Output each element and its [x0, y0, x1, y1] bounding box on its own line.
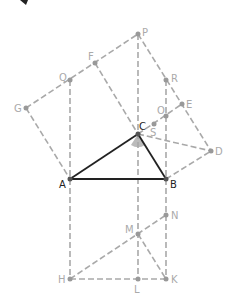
label-l: L: [134, 284, 140, 295]
label-b: B: [170, 179, 177, 190]
label-d: D: [215, 146, 223, 157]
label-f: F: [88, 51, 94, 62]
label-p: P: [142, 27, 148, 38]
geometry-diagram: P F Q G R E O S D N M H L K A B C: [0, 0, 234, 308]
label-n: N: [171, 210, 178, 221]
label-m: M: [125, 224, 134, 235]
label-r: R: [171, 73, 178, 84]
label-e: E: [186, 99, 192, 110]
point-labels: P F Q G R E O S D N M H L K A B C: [14, 27, 223, 295]
label-s: S: [150, 127, 156, 138]
points: [24, 32, 214, 282]
label-q: Q: [59, 72, 67, 83]
triangle-abc: [70, 134, 166, 179]
label-g: G: [14, 103, 22, 114]
label-h: H: [58, 274, 66, 285]
label-a: A: [59, 179, 66, 190]
construction-lines: [26, 34, 211, 279]
corner-mark: [20, 0, 28, 5]
label-k: K: [171, 274, 178, 285]
label-c: C: [139, 121, 146, 132]
label-o: O: [157, 105, 165, 116]
